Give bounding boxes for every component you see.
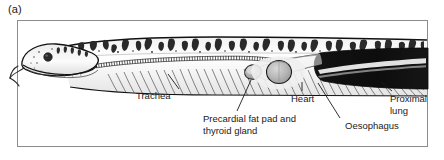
panel-letter: (a): [8, 3, 22, 15]
label-oesophagus: Oesophagus: [345, 120, 399, 132]
figure-panel: (a): [0, 0, 444, 160]
label-precardial-fat-pad: Precardial fat pad and thyroid gland: [203, 113, 323, 136]
label-trachea: Trachea: [136, 90, 171, 102]
label-proximal-lung: Proximal lung: [390, 93, 434, 116]
label-heart: Heart: [291, 93, 314, 105]
